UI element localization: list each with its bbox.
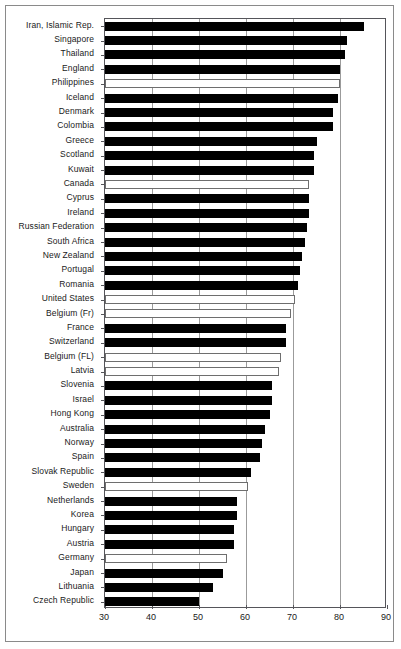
bar-row — [105, 48, 387, 62]
bar-row — [105, 120, 387, 134]
category-label: Slovak Republic — [32, 465, 94, 478]
category-tick-mark — [101, 156, 105, 157]
bar-row — [105, 33, 387, 47]
bar-row — [105, 595, 387, 609]
value-tick-label: 40 — [146, 612, 156, 622]
bar-row — [105, 566, 387, 580]
category-label: Slovenia — [61, 378, 94, 391]
bar — [105, 266, 300, 275]
category-label: Sweden — [63, 479, 94, 492]
bar — [105, 540, 234, 549]
category-tick-mark — [101, 400, 105, 401]
bar-row — [105, 451, 387, 465]
bar-row — [105, 105, 387, 119]
category-label: Switzerland — [49, 335, 94, 348]
value-tick-label: 30 — [99, 612, 109, 622]
bar-row — [105, 350, 387, 364]
category-tick-mark — [101, 328, 105, 329]
category-tick-mark — [101, 84, 105, 85]
category-tick-mark — [101, 285, 105, 286]
bar-row — [105, 235, 387, 249]
bar-row — [105, 537, 387, 551]
category-label: Romania — [59, 278, 94, 291]
category-label: Colombia — [57, 119, 94, 132]
category-tick-mark — [101, 242, 105, 243]
category-tick-mark — [101, 113, 105, 114]
category-tick-mark — [101, 501, 105, 502]
category-tick-mark — [101, 55, 105, 56]
value-tick-label: 90 — [381, 612, 391, 622]
category-label: Denmark — [59, 105, 94, 118]
category-tick-mark — [101, 602, 105, 603]
bar-row — [105, 62, 387, 76]
bar — [105, 381, 272, 390]
category-label: France — [67, 321, 94, 334]
category-tick-mark — [101, 69, 105, 70]
category-tick-mark — [101, 141, 105, 142]
bar-row — [105, 465, 387, 479]
bar-row — [105, 278, 387, 292]
category-label: United States — [42, 292, 94, 305]
category-tick-mark — [101, 343, 105, 344]
category-tick-mark — [101, 228, 105, 229]
bar-row — [105, 436, 387, 450]
category-tick-mark — [101, 127, 105, 128]
value-tick-label: 70 — [287, 612, 297, 622]
category-label: Belgium (Fr) — [46, 307, 94, 320]
bar-row — [105, 393, 387, 407]
bar — [105, 79, 340, 88]
category-tick-mark — [101, 271, 105, 272]
category-tick-mark — [101, 530, 105, 531]
category-tick-mark — [101, 444, 105, 445]
bar-row — [105, 422, 387, 436]
category-label: Scotland — [60, 148, 94, 161]
bar — [105, 453, 260, 462]
category-axis-labels: Iran, Islamic Rep.SingaporeThailandEngla… — [6, 18, 100, 608]
bar — [105, 22, 364, 31]
value-tick-mark — [387, 605, 388, 609]
category-tick-mark — [101, 415, 105, 416]
bar-row — [105, 192, 387, 206]
category-label: England — [62, 62, 94, 75]
category-label: Singapore — [54, 33, 94, 46]
category-label: Iran, Islamic Rep. — [26, 19, 94, 32]
bar-row — [105, 134, 387, 148]
value-tick-label: 60 — [240, 612, 250, 622]
bar — [105, 597, 199, 606]
category-tick-mark — [101, 256, 105, 257]
category-label: Netherlands — [47, 494, 94, 507]
category-label: Czech Republic — [33, 594, 94, 607]
bar-row — [105, 220, 387, 234]
value-tick-label: 50 — [193, 612, 203, 622]
bar — [105, 166, 314, 175]
category-tick-mark — [101, 300, 105, 301]
bar — [105, 396, 272, 405]
bar — [105, 569, 223, 578]
category-label: Lithuania — [59, 580, 94, 593]
category-tick-mark — [101, 170, 105, 171]
category-label: Hong Kong — [51, 407, 94, 420]
bar — [105, 36, 347, 45]
category-tick-mark — [101, 26, 105, 27]
bar — [105, 583, 213, 592]
bar — [105, 511, 237, 520]
bar — [105, 151, 314, 160]
category-tick-mark — [101, 386, 105, 387]
bar — [105, 94, 338, 103]
bar — [105, 252, 302, 261]
bar-row — [105, 580, 387, 594]
category-label: Canada — [64, 177, 94, 190]
bar-row — [105, 494, 387, 508]
bar-row — [105, 163, 387, 177]
category-tick-mark — [101, 184, 105, 185]
value-axis-labels: 30405060708090 — [104, 612, 388, 630]
category-label: Norway — [65, 436, 94, 449]
category-label: South Africa — [47, 235, 94, 248]
bar — [105, 194, 309, 203]
category-label: Philippines — [52, 76, 94, 89]
category-label: Thailand — [61, 47, 94, 60]
category-tick-mark — [101, 357, 105, 358]
category-tick-mark — [101, 213, 105, 214]
category-label: Cyprus — [66, 191, 94, 204]
category-label: New Zealand — [43, 249, 94, 262]
